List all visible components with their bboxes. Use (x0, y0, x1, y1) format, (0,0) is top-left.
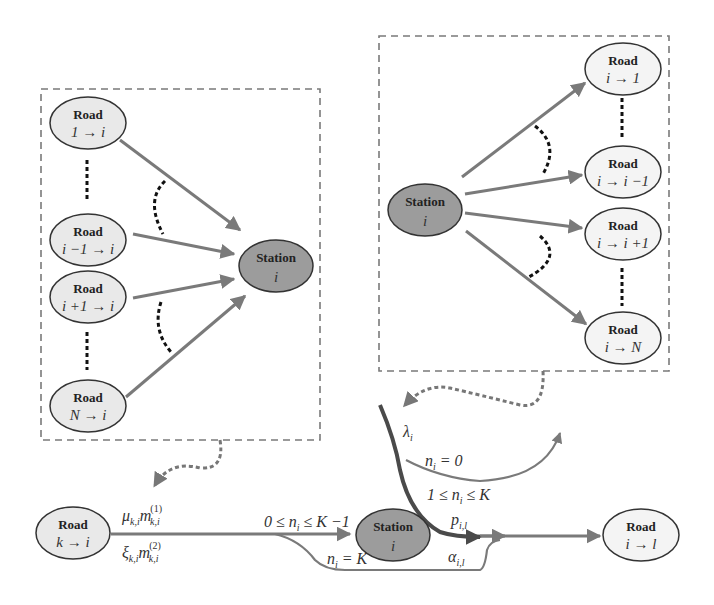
station-label: i (274, 269, 278, 285)
outflow-panel: Station i Road i → 1 Road i → i −1 Road … (379, 36, 669, 371)
edge-road-1-to-station (120, 140, 240, 230)
label-full-condition: ni = K (327, 550, 369, 570)
road-title: Road (73, 107, 103, 122)
road-node-i-to-l[interactable]: Road i → l (603, 509, 679, 561)
label-empty-condition: ni = 0 (425, 452, 463, 472)
diagram-canvas: Road 1 → i Road i −1 → i Road i +1 → i R… (0, 0, 714, 605)
label-enter-condition: 0 ≤ ni ≤ K −1 (264, 513, 350, 533)
connector-inflow-to-flow (155, 440, 221, 485)
road-label: i → 1 (606, 70, 640, 86)
angle-arc-icon (535, 126, 550, 174)
road-node-N-to-i[interactable]: Road N → i (50, 380, 126, 432)
road-label: N → i (69, 407, 107, 423)
station-title: Station (256, 250, 297, 265)
road-title: Road (608, 156, 638, 171)
edge-road-i-1-to-station (133, 234, 234, 254)
road-node-i+1-to-i[interactable]: Road i +1 → i (50, 271, 126, 323)
road-title: Road (58, 517, 88, 532)
edge-station-to-road-i+1 (465, 213, 582, 228)
label-p: pi,l (450, 511, 467, 531)
edge-road-i+1-to-station (133, 279, 234, 298)
road-node-1-to-i[interactable]: Road 1 → i (50, 97, 126, 149)
road-label: i +1 → i (62, 298, 114, 314)
road-node-i-to-1[interactable]: Road i → 1 (585, 43, 661, 95)
road-title: Road (608, 322, 638, 337)
station-label: i (391, 538, 395, 554)
station-title: Station (405, 194, 446, 209)
road-title: Road (626, 519, 656, 534)
road-node-k-to-i[interactable]: Road k → i (36, 507, 110, 559)
road-label: i → N (605, 339, 643, 355)
road-node-i-1-to-i[interactable]: Road i −1 → i (50, 214, 126, 266)
label-lambda: λi (402, 423, 413, 443)
station-node-inflow[interactable]: Station i (239, 240, 313, 292)
road-title: Road (73, 281, 103, 296)
station-label: i (423, 213, 427, 229)
road-label: i −1 → i (62, 241, 114, 257)
edge-station-to-road-N (466, 231, 586, 324)
connector-outflow-to-flow (405, 371, 543, 406)
edge-station-to-road-i-1 (465, 175, 582, 194)
road-node-i-to-i-1[interactable]: Road i → i −1 (585, 146, 661, 198)
road-node-i-to-N[interactable]: Road i → N (585, 312, 661, 364)
road-label: 1 → i (71, 124, 105, 140)
road-label: k → i (56, 534, 89, 550)
label-xi-m2: ξk,im(2)k,i (122, 540, 161, 564)
angle-arc-icon (154, 181, 165, 234)
inflow-panel: Road 1 → i Road i −1 → i Road i +1 → i R… (41, 89, 320, 440)
road-title: Road (608, 53, 638, 68)
label-alpha: αi,l (448, 548, 465, 568)
angle-arc-icon (527, 236, 550, 278)
edge-station-to-road-1 (462, 83, 585, 177)
label-board-condition: 1 ≤ ni ≤ K (427, 486, 491, 506)
road-node-i-to-i+1[interactable]: Road i → i +1 (585, 208, 661, 260)
label-mu-m1: μk,im(1)k,i (121, 503, 162, 527)
road-title: Road (608, 218, 638, 233)
road-label: i → i −1 (597, 173, 649, 189)
edge-road-N-to-station (126, 296, 245, 397)
queue-flow: Road k → i Station i Road i → l μk,im(1)… (36, 405, 679, 570)
angle-arc-icon (158, 302, 171, 352)
road-title: Road (73, 224, 103, 239)
road-label: i → i +1 (597, 235, 649, 251)
road-label: i → l (626, 536, 657, 552)
road-title: Road (73, 390, 103, 405)
station-node-outflow[interactable]: Station i (388, 184, 462, 236)
station-title: Station (373, 519, 414, 534)
